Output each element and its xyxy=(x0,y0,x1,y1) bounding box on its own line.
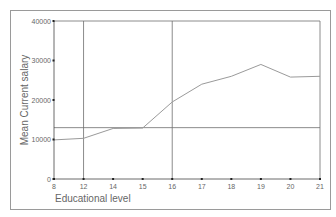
y-tick-mark xyxy=(53,20,55,22)
x-tick-mark xyxy=(289,178,291,180)
x-axis-ticks: 8121415161718192021 xyxy=(52,178,324,190)
y-axis-ticks: 010000200003000040000 xyxy=(32,18,55,183)
y-tick-label: 0 xyxy=(47,176,51,183)
y-axis-title: Mean Current salary xyxy=(19,55,30,146)
x-tick-label: 16 xyxy=(168,183,176,190)
y-tick-label: 10000 xyxy=(32,136,52,143)
y-tick-mark xyxy=(53,60,55,62)
x-tick-label: 20 xyxy=(287,183,295,190)
x-tick-mark xyxy=(83,178,85,180)
y-tick-label: 20000 xyxy=(32,97,52,104)
x-axis-title: Educational level xyxy=(55,193,131,204)
x-tick-label: 14 xyxy=(109,183,117,190)
data-series xyxy=(54,64,320,139)
plot-border xyxy=(54,21,320,179)
y-tick-mark xyxy=(53,99,55,101)
x-tick-label: 17 xyxy=(198,183,206,190)
x-tick-mark xyxy=(260,178,262,180)
y-tick-label: 40000 xyxy=(32,18,52,25)
axes xyxy=(54,21,320,179)
x-tick-label: 18 xyxy=(227,183,235,190)
x-tick-label: 15 xyxy=(139,183,147,190)
y-tick-label: 30000 xyxy=(32,57,52,64)
x-tick-mark xyxy=(230,178,232,180)
x-tick-mark xyxy=(171,178,173,180)
x-tick-label: 8 xyxy=(52,183,56,190)
x-tick-mark xyxy=(112,178,114,180)
y-tick-mark xyxy=(53,139,55,141)
x-tick-label: 12 xyxy=(80,183,88,190)
x-tick-mark xyxy=(201,178,203,180)
x-tick-mark xyxy=(319,178,321,180)
x-tick-label: 19 xyxy=(257,183,265,190)
x-tick-mark xyxy=(53,178,55,180)
x-tick-mark xyxy=(142,178,144,180)
x-tick-label: 21 xyxy=(316,183,324,190)
line-chart: 010000200003000040000 812141516171819202… xyxy=(0,0,336,217)
reference-lines xyxy=(54,21,320,179)
series-line xyxy=(54,64,320,139)
